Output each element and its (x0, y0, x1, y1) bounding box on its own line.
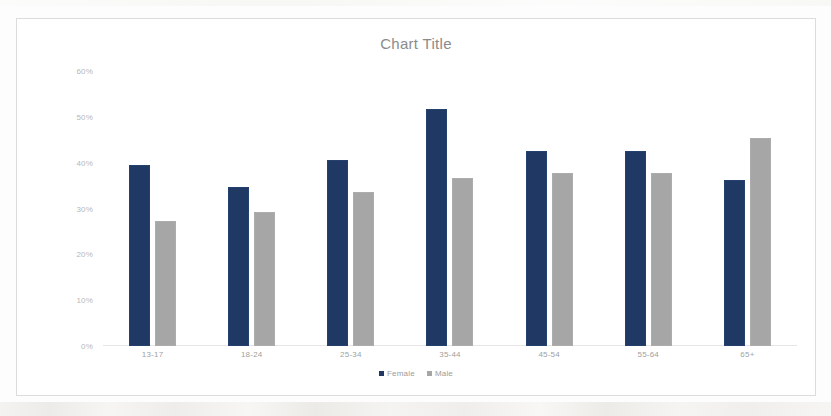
bar-group (599, 53, 698, 346)
bar-male[interactable] (155, 221, 176, 346)
bar-groups (103, 53, 797, 346)
bar-male[interactable] (651, 173, 672, 346)
bar-female[interactable] (426, 109, 447, 346)
bar-female[interactable] (129, 165, 150, 346)
x-axis-tick-label: 35-44 (400, 350, 499, 359)
bar-male[interactable] (750, 138, 771, 346)
y-axis-tick-label: 10% (76, 296, 93, 305)
x-axis-tick-label: 55-64 (599, 350, 698, 359)
bars-plot-inner (103, 53, 797, 346)
y-axis-tick-label: 20% (76, 250, 93, 259)
bar-female[interactable] (724, 180, 745, 346)
legend-swatch-icon (427, 371, 432, 376)
bar-female[interactable] (526, 151, 547, 346)
legend-item-female[interactable]: Female (379, 369, 415, 378)
y-axis-tick-label: 50% (76, 112, 93, 121)
bar-male[interactable] (452, 178, 473, 346)
y-axis-tick-label: 0% (81, 342, 93, 351)
x-axis-tick-label: 65+ (698, 350, 797, 359)
x-axis-tick-label: 25-34 (301, 350, 400, 359)
bar-group (103, 53, 202, 346)
bar-group (400, 53, 499, 346)
legend-label: Male (435, 369, 453, 378)
bar-female[interactable] (625, 151, 646, 346)
x-axis-labels: 13-17 18-24 25-34 35-44 45-54 55-64 65+ (103, 350, 797, 359)
chart-title: Chart Title (17, 35, 815, 52)
x-axis-tick-label: 45-54 (500, 350, 599, 359)
bar-male[interactable] (552, 173, 573, 346)
bar-male[interactable] (353, 192, 374, 346)
bar-group (301, 53, 400, 346)
plot-area: 0% 10% 20% 30% 40% 50% 60% (63, 53, 797, 346)
y-axis: 0% 10% 20% 30% 40% 50% 60% (63, 53, 97, 346)
x-axis-tick-label: 13-17 (103, 350, 202, 359)
scan-artifact-top (0, 0, 831, 6)
legend-swatch-icon (379, 371, 384, 376)
scan-artifact-bottom (0, 402, 831, 416)
y-axis-tick-label: 30% (76, 204, 93, 213)
y-axis-tick-label: 40% (76, 158, 93, 167)
bar-group (500, 53, 599, 346)
chart-container: Chart Title 0% 10% 20% 30% 40% 50% 60% (16, 18, 816, 396)
legend-label: Female (387, 369, 415, 378)
scanned-page-background: Chart Title 0% 10% 20% 30% 40% 50% 60% (0, 0, 831, 416)
bar-male[interactable] (254, 212, 275, 346)
bar-female[interactable] (228, 187, 249, 346)
x-axis-tick-label: 18-24 (202, 350, 301, 359)
bar-group (698, 53, 797, 346)
bar-group (202, 53, 301, 346)
chart-legend: Female Male (17, 369, 815, 378)
y-axis-tick-label: 60% (76, 67, 93, 76)
bar-female[interactable] (327, 160, 348, 346)
legend-item-male[interactable]: Male (427, 369, 453, 378)
